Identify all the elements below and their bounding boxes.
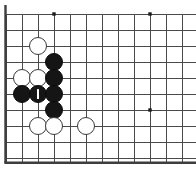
white-stone-1[interactable]	[29, 37, 47, 55]
star-point-right	[148, 108, 151, 111]
star-point-top-right	[148, 12, 151, 15]
move-number-marker	[37, 89, 39, 99]
star-point-top-left	[52, 12, 55, 15]
white-stone-6[interactable]	[77, 117, 95, 135]
go-board-grid	[0, 0, 196, 170]
go-board-diagram	[0, 0, 196, 170]
white-stone-5[interactable]	[45, 117, 63, 135]
